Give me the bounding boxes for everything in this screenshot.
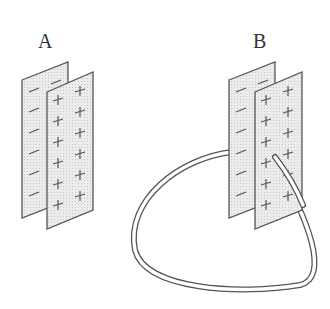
diagram-svg — [0, 0, 330, 309]
plate-pair-b — [134, 62, 315, 289]
capacitor-diagram: A B — [0, 0, 330, 309]
plate-pair-a — [22, 62, 93, 229]
